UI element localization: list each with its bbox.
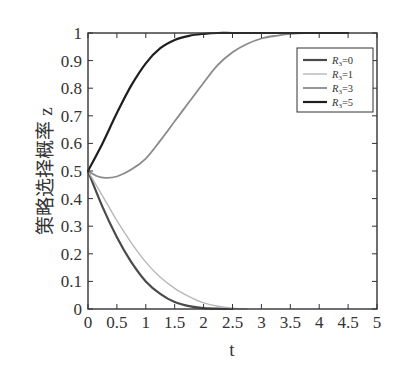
y-tick-label: 0.7 [61,107,83,126]
y-tick-label: 0.2 [61,245,82,264]
y-tick-label: 0.8 [61,79,82,98]
y-tick-label: 0.1 [61,272,82,291]
y-tick-label: 0.5 [61,162,82,181]
y-tick-label: 0.3 [61,217,82,236]
x-tick-label: 1 [142,313,151,332]
x-tick-label: 2 [199,313,208,332]
x-tick-label: 3 [257,313,266,332]
legend: R3=0R3=1R3=3R3=5 [297,48,373,112]
y-axis-label: 策略选择概率 z [35,107,56,234]
x-tick-label: 0.5 [106,313,127,332]
y-tick-label: 0.9 [61,52,82,71]
x-tick-label: 4 [315,313,324,332]
x-tick-label: 4.5 [337,313,358,332]
y-tick-label: 0.6 [61,134,82,153]
chart: 00.511.522.533.544.55 00.10.20.30.40.50.… [0,0,400,374]
x-tick-label: 5 [373,313,382,332]
x-tick-label: 3.5 [280,313,301,332]
y-tick-label: 1 [74,24,83,43]
x-tick-label: 1.5 [164,313,185,332]
x-tick-label: 2.5 [222,313,243,332]
y-tick-label: 0 [74,300,83,319]
series-line-r3-1 [88,171,247,309]
x-axis-label: t [229,339,235,360]
series-line-r3-0 [88,171,233,309]
y-tick-label: 0.4 [61,190,83,209]
x-tick-label: 0 [84,313,93,332]
